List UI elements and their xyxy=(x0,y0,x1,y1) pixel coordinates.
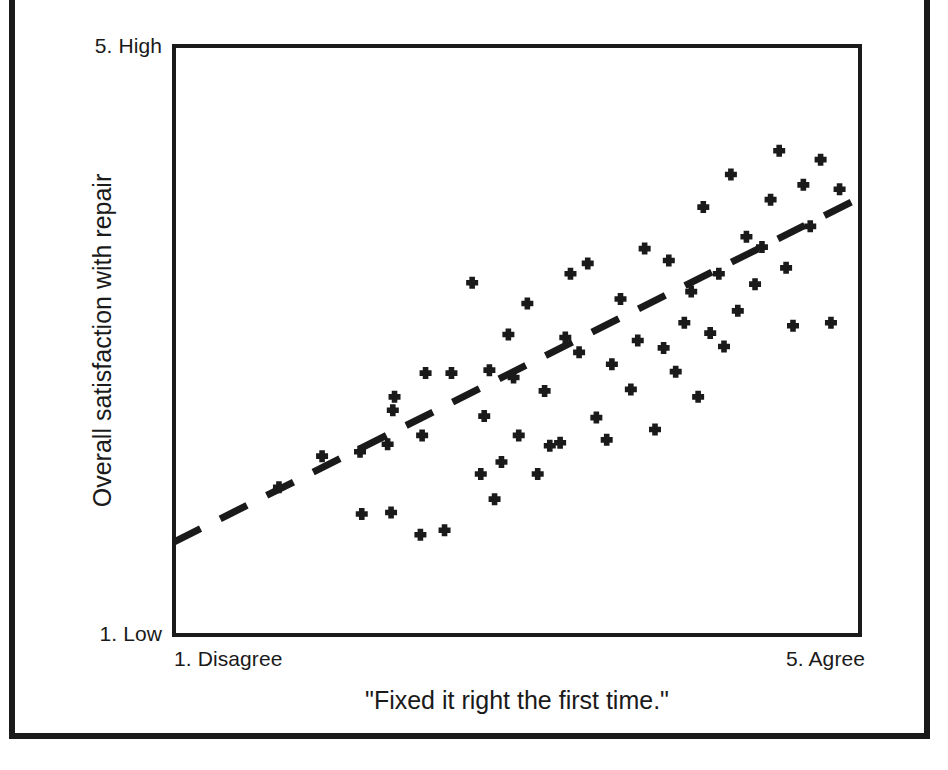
scatter-point xyxy=(670,366,682,378)
scatter-point xyxy=(649,423,661,435)
scatter-layer xyxy=(172,44,862,637)
scatter-point xyxy=(713,268,725,280)
scatter-point xyxy=(385,506,397,518)
scatter-point xyxy=(663,254,675,266)
scatter-point xyxy=(697,201,709,213)
scatter-point xyxy=(780,262,792,274)
scatter-point xyxy=(513,429,525,441)
scatter-point xyxy=(590,412,602,424)
scatter-point xyxy=(804,220,816,232)
scatter-point xyxy=(732,305,744,317)
scatter-point xyxy=(564,268,576,280)
scatter-point xyxy=(389,391,401,403)
scatter-point xyxy=(483,364,495,376)
scatter-point xyxy=(615,293,627,305)
x-axis-title: "Fixed it right the first time." xyxy=(172,686,862,715)
scatter-point xyxy=(749,278,761,290)
scatter-point xyxy=(625,383,637,395)
scatter-point xyxy=(466,277,478,289)
scatter-point xyxy=(740,231,752,243)
scatter-point xyxy=(439,524,451,536)
scatter-point xyxy=(797,179,809,191)
scatter-point xyxy=(573,346,585,358)
scatter-point xyxy=(356,508,368,520)
scatter-point xyxy=(532,468,544,480)
scatter-point xyxy=(787,320,799,332)
scatter-point xyxy=(544,440,556,452)
plot-area xyxy=(172,44,862,637)
scatter-point xyxy=(387,404,399,416)
scatter-point xyxy=(606,358,618,370)
x-axis-min-label: 1. Disagree xyxy=(174,647,283,671)
scatter-point xyxy=(834,183,846,195)
scatter-point xyxy=(554,437,566,449)
scatter-point xyxy=(639,243,651,255)
scatter-point xyxy=(725,168,737,180)
scatter-point xyxy=(692,391,704,403)
scatter-point xyxy=(539,385,551,397)
scatter-point xyxy=(414,529,426,541)
scatter-point xyxy=(773,145,785,157)
scatter-point xyxy=(475,468,487,480)
y-axis-title: Overall satisfaction with repair xyxy=(82,44,122,637)
scatter-point xyxy=(489,493,501,505)
scatter-point xyxy=(495,456,507,468)
scatter-point xyxy=(825,317,837,329)
scatter-point xyxy=(521,297,533,309)
scatter-point xyxy=(478,410,490,422)
scatter-point xyxy=(316,450,328,462)
scatter-point xyxy=(502,329,514,341)
x-axis-max-label: 5. Agree xyxy=(786,647,865,671)
scatter-point xyxy=(445,367,457,379)
scatter-point xyxy=(658,342,670,354)
scatter-plot-figure: 5. High 1. Low 1. Disagree 5. Agree Over… xyxy=(0,0,948,770)
scatter-point xyxy=(632,335,644,347)
scatter-point xyxy=(582,257,594,269)
scatter-point xyxy=(704,327,716,339)
scatter-point xyxy=(420,367,432,379)
scatter-point xyxy=(765,194,777,206)
scatter-point xyxy=(815,154,827,166)
scatter-point xyxy=(718,340,730,352)
scatter-point xyxy=(416,429,428,441)
scatter-point xyxy=(601,434,613,446)
scatter-point xyxy=(678,317,690,329)
